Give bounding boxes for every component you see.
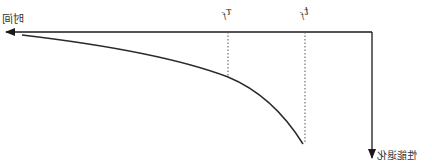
marker-label-tau-f-main: τ	[226, 5, 232, 18]
marker-label-t-f-main: t	[304, 5, 308, 18]
marker-label-tau-f: τf	[223, 5, 232, 20]
marker-label-t-f-sub: f	[301, 11, 304, 20]
x-axis-label: 时间	[2, 10, 24, 26]
degradation-diagram	[0, 0, 432, 164]
y-axis-label: 性能退化	[377, 147, 417, 162]
marker-label-t-f: tf	[301, 5, 308, 20]
degradation-curve	[22, 35, 303, 144]
marker-label-tau-f-sub: f	[223, 11, 226, 20]
